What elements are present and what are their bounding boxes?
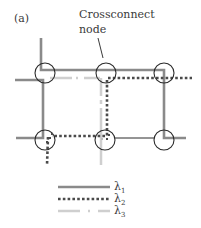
lambda2-path [47,78,192,165]
node-bottom-middle [95,130,115,150]
network-diagram [0,0,201,228]
node-top-left [35,63,55,83]
legend [58,187,110,211]
callout-pointer [98,38,103,58]
lambda3-path [50,78,101,165]
legend-label-lambda3: λ3 [114,204,125,219]
